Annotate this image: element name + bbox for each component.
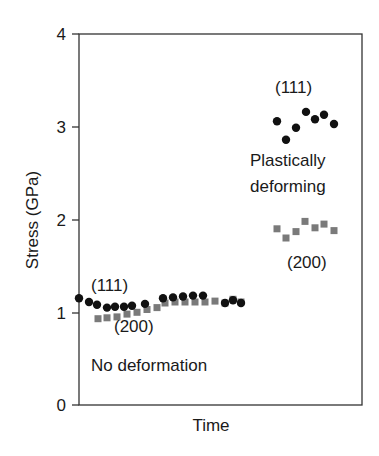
marker-circle-111 bbox=[320, 111, 328, 119]
marker-square-200 bbox=[283, 235, 290, 242]
marker-circle-111 bbox=[85, 298, 93, 306]
marker-circle-111 bbox=[75, 294, 83, 302]
plot-frame bbox=[79, 34, 362, 405]
marker-circle-111 bbox=[273, 117, 281, 125]
marker-square-200 bbox=[154, 304, 161, 311]
marker-circle-111 bbox=[330, 120, 338, 128]
marker-square-200 bbox=[95, 315, 102, 322]
marker-circle-111 bbox=[111, 303, 119, 311]
y-axis bbox=[72, 34, 79, 405]
y-axis-label: Stress (GPa) bbox=[23, 171, 42, 269]
marker-circle-111 bbox=[221, 299, 229, 307]
marker-circle-111 bbox=[229, 296, 237, 304]
annotation-left-200: (200) bbox=[114, 317, 154, 336]
marker-circle-111 bbox=[292, 124, 300, 132]
marker-circle-111 bbox=[302, 108, 310, 116]
annotation-plastically: Plastically bbox=[250, 151, 326, 170]
marker-circle-111 bbox=[159, 294, 167, 302]
marker-circle-111 bbox=[199, 291, 207, 299]
marker-square-200 bbox=[212, 298, 219, 305]
y-tick-1: 1 bbox=[57, 304, 66, 323]
marker-circle-111 bbox=[103, 303, 111, 311]
marker-circle-111 bbox=[189, 291, 197, 299]
x-axis-label: Time bbox=[192, 416, 229, 435]
y-tick-4: 4 bbox=[57, 25, 66, 44]
annotation-left-111: (111) bbox=[91, 276, 128, 295]
marker-square-200 bbox=[331, 227, 338, 234]
annotation-right-111: (111) bbox=[275, 78, 312, 97]
y-tick-3: 3 bbox=[57, 118, 66, 137]
marker-square-200 bbox=[134, 309, 141, 316]
marker-square-200 bbox=[274, 225, 281, 232]
annotation-right-200: (200) bbox=[287, 253, 327, 272]
marker-circle-111 bbox=[128, 302, 136, 310]
marker-circle-111 bbox=[237, 299, 245, 307]
marker-circle-111 bbox=[179, 292, 187, 300]
marker-circle-111 bbox=[120, 303, 128, 311]
marker-square-200 bbox=[293, 228, 300, 235]
marker-square-200 bbox=[302, 218, 309, 225]
marker-circle-111 bbox=[141, 300, 149, 308]
marker-circle-111 bbox=[93, 301, 101, 309]
marker-square-200 bbox=[104, 314, 111, 321]
y-tick-2: 2 bbox=[57, 211, 66, 230]
y-tick-0: 0 bbox=[57, 396, 66, 415]
annotation-deforming: deforming bbox=[250, 177, 326, 196]
stress-chart: 4 3 2 1 0 Stress (GPa) Time (111) (200) … bbox=[0, 0, 379, 456]
marker-square-200 bbox=[312, 224, 319, 231]
marker-square-200 bbox=[321, 221, 328, 228]
annotation-no-deformation: No deformation bbox=[91, 356, 207, 375]
marker-circle-111 bbox=[282, 136, 290, 144]
marker-circle-111 bbox=[311, 115, 319, 123]
marker-circle-111 bbox=[169, 293, 177, 301]
